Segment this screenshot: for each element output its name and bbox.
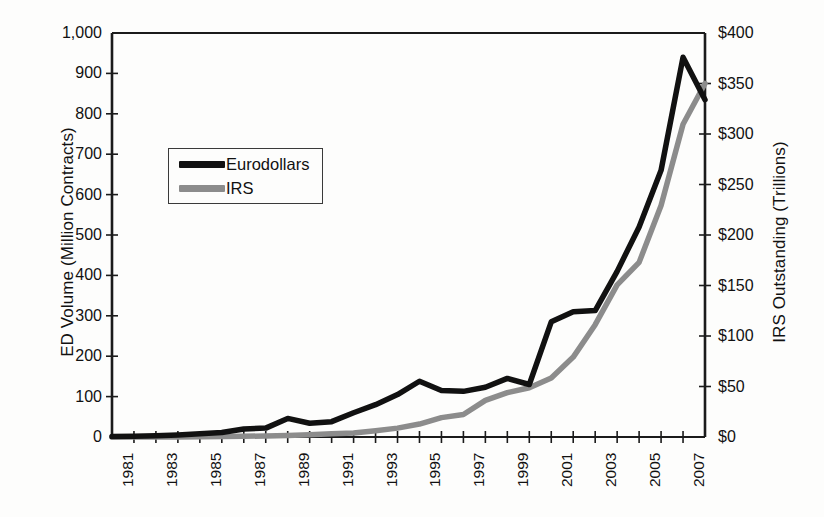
x-tick-2007: 2007 bbox=[690, 453, 708, 487]
y-tick-left-600: 600 bbox=[36, 186, 102, 204]
x-tick-1981: 1981 bbox=[119, 453, 137, 487]
chart-plot-svg bbox=[0, 0, 824, 517]
x-tick-2003: 2003 bbox=[602, 453, 620, 487]
y-tick-right-400: $400 bbox=[718, 24, 754, 42]
legend-label-eurodollars: Eurodollars bbox=[226, 156, 309, 173]
y-tick-left-300: 300 bbox=[36, 307, 102, 325]
x-tick-1987: 1987 bbox=[251, 453, 269, 487]
y-tick-left-900: 900 bbox=[36, 64, 102, 82]
series-line-irs bbox=[112, 84, 705, 438]
x-tick-2005: 2005 bbox=[646, 453, 664, 487]
x-tick-1985: 1985 bbox=[207, 453, 225, 487]
y-tick-left-0: 0 bbox=[36, 428, 102, 446]
y-tick-left-800: 800 bbox=[36, 105, 102, 123]
y-tick-left-1000: 1,000 bbox=[36, 24, 102, 42]
chart-container: ED Volume (Million Contracts) IRS Outsta… bbox=[0, 0, 824, 517]
y-tick-left-500: 500 bbox=[36, 226, 102, 244]
y-tick-right-0: $0 bbox=[718, 428, 736, 446]
x-tick-1997: 1997 bbox=[470, 453, 488, 487]
x-tick-1989: 1989 bbox=[295, 453, 313, 487]
y-tick-left-200: 200 bbox=[36, 347, 102, 365]
series-lines bbox=[112, 57, 705, 437]
y-tick-left-700: 700 bbox=[36, 145, 102, 163]
y-tick-left-400: 400 bbox=[36, 266, 102, 284]
y-tick-right-350: $350 bbox=[718, 75, 754, 93]
x-tick-1993: 1993 bbox=[383, 453, 401, 487]
y-tick-left-100: 100 bbox=[36, 388, 102, 406]
x-tick-2001: 2001 bbox=[558, 453, 576, 487]
y-tick-right-50: $50 bbox=[718, 378, 745, 396]
y-tick-right-250: $250 bbox=[718, 176, 754, 194]
y-tick-right-150: $150 bbox=[718, 277, 754, 295]
y-tick-right-300: $300 bbox=[718, 125, 754, 143]
legend-item-eurodollars: Eurodollars bbox=[169, 152, 322, 176]
x-tick-1991: 1991 bbox=[339, 453, 357, 487]
y-tick-right-100: $100 bbox=[718, 327, 754, 345]
x-tick-1995: 1995 bbox=[426, 453, 444, 487]
legend-swatch-eurodollars bbox=[179, 161, 225, 168]
legend-item-irs: IRS bbox=[169, 176, 322, 200]
axis-frame bbox=[112, 33, 705, 437]
legend-swatch-irs bbox=[179, 185, 225, 192]
series-line-eurodollars bbox=[112, 57, 705, 436]
x-tick-1983: 1983 bbox=[163, 453, 181, 487]
x-tick-1999: 1999 bbox=[514, 453, 532, 487]
y-axis-right-title: IRS Outstanding (Trillions) bbox=[770, 42, 790, 442]
y-tick-right-200: $200 bbox=[718, 226, 754, 244]
legend-label-irs: IRS bbox=[226, 180, 254, 197]
chart-legend: Eurodollars IRS bbox=[168, 148, 323, 204]
